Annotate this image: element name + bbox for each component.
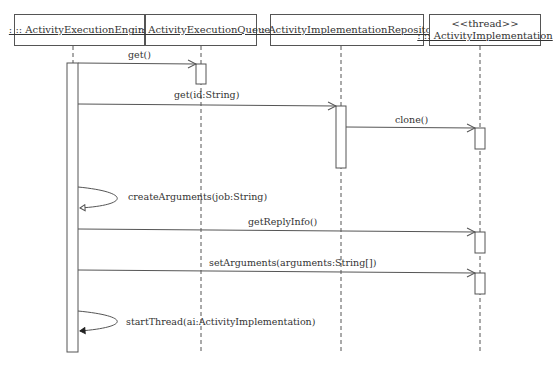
lifeline-box-engine: : :: ActivityExecutionEngine bbox=[14, 14, 145, 46]
message-set-arguments-arrow bbox=[78, 270, 475, 273]
message-clone-arrow bbox=[346, 127, 475, 128]
activation-impl-1 bbox=[475, 128, 485, 149]
lifeline-name: : :: ActivityExecutionEngine bbox=[9, 24, 150, 36]
message-get-arrow bbox=[78, 63, 196, 64]
message-label-get: get() bbox=[128, 49, 151, 60]
lifeline-stereotype: <<thread>> bbox=[451, 18, 518, 30]
lifeline-box-repo: : :: ActivityImplementationRepository bbox=[270, 14, 424, 46]
lifeline-name: : :: ActivityImplementationRepository bbox=[252, 24, 442, 36]
lifeline-name: : :: ActivityImplementation bbox=[417, 30, 552, 42]
activation-repo bbox=[336, 106, 346, 168]
lifeline-name: : :: ActivityExecutionQueue bbox=[132, 24, 271, 36]
activation-impl-2 bbox=[475, 232, 485, 253]
message-label-start-thread: startThread(ai:ActivityImplementation) bbox=[126, 316, 315, 327]
message-label-create-arguments: createArguments(job:String) bbox=[128, 191, 267, 202]
activation-engine bbox=[67, 63, 78, 352]
message-start-thread-self bbox=[78, 311, 117, 331]
message-get-reply-info-arrow bbox=[78, 229, 475, 232]
message-label-get-id: get(id:String) bbox=[174, 89, 239, 100]
message-create-arguments-self bbox=[78, 187, 117, 208]
activation-queue bbox=[196, 64, 206, 84]
activation-impl-3 bbox=[475, 273, 485, 294]
message-label-clone: clone() bbox=[395, 114, 428, 125]
message-label-get-reply-info: getReplyInfo() bbox=[248, 216, 317, 227]
lifeline-box-queue: : :: ActivityExecutionQueue bbox=[145, 14, 257, 46]
message-label-set-arguments: setArguments(arguments:String[]) bbox=[209, 257, 376, 268]
lifeline-box-impl: <<thread>> : :: ActivityImplementation bbox=[429, 14, 541, 46]
message-get-id-arrow bbox=[78, 104, 336, 106]
sequence-diagram: : :: ActivityExecutionEngine : :: Activi… bbox=[0, 0, 558, 371]
